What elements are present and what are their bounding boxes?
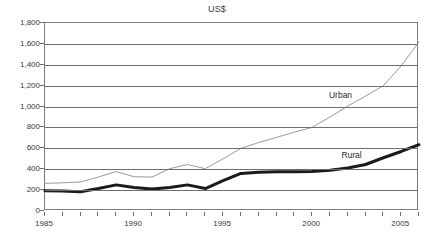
- x-axis-tick-mark: [276, 212, 277, 216]
- gridline: [45, 169, 417, 170]
- x-axis-tick-mark: [97, 212, 98, 216]
- gridline: [45, 107, 417, 108]
- gridline: [45, 44, 417, 45]
- gridline: [45, 127, 417, 128]
- y-axis-tick-label: 600: [2, 143, 40, 152]
- series-label-urban: Urban: [329, 90, 352, 100]
- x-axis-tick-label: 1990: [124, 219, 142, 228]
- x-axis-tick-mark: [311, 212, 312, 216]
- y-axis-tick-label: 400: [2, 164, 40, 173]
- y-axis-tick-label: 1,400: [2, 59, 40, 68]
- x-axis-tick-mark: [240, 212, 241, 216]
- x-axis-tick-label: 2000: [302, 219, 320, 228]
- x-axis-tick-mark: [44, 212, 45, 216]
- x-axis-tick-mark: [258, 212, 259, 216]
- chart-title: US$: [0, 4, 434, 14]
- x-axis-tick-mark: [222, 212, 223, 216]
- y-axis-tick-label: 1,800: [2, 18, 40, 27]
- y-axis-labels: 02004006008001,0001,2001,4001,6001,800: [0, 0, 40, 246]
- series-line-urban: [45, 42, 419, 184]
- x-axis-tick-mark: [418, 212, 419, 216]
- x-axis-tick-label: 2005: [391, 219, 409, 228]
- series-lines: [45, 23, 419, 211]
- gridline: [45, 65, 417, 66]
- x-axis-tick-mark: [365, 212, 366, 216]
- x-axis-tick-mark: [204, 212, 205, 216]
- x-axis-tick-mark: [115, 212, 116, 216]
- series-label-rural: Rural: [341, 150, 361, 160]
- x-axis-tick-mark: [329, 212, 330, 216]
- series-line-rural: [45, 145, 419, 192]
- y-axis-tick-label: 200: [2, 185, 40, 194]
- x-axis-tick-mark: [400, 212, 401, 216]
- x-axis-tick-mark: [169, 212, 170, 216]
- gridline: [45, 190, 417, 191]
- x-axis-tick-mark: [133, 212, 134, 216]
- x-axis-tick-mark: [293, 212, 294, 216]
- x-axis-tick-mark: [62, 212, 63, 216]
- x-axis-tick-mark: [151, 212, 152, 216]
- y-axis-tick-mark: [40, 210, 44, 211]
- gridline: [45, 86, 417, 87]
- x-axis-labels: 19851990199520002005: [0, 212, 434, 232]
- x-axis-tick-mark: [382, 212, 383, 216]
- x-axis-tick-mark: [347, 212, 348, 216]
- y-axis-tick-label: 1,600: [2, 38, 40, 47]
- y-axis-tick-label: 1,000: [2, 101, 40, 110]
- x-axis-tick-mark: [186, 212, 187, 216]
- y-axis-tick-label: 800: [2, 122, 40, 131]
- plot-area: [44, 22, 418, 210]
- x-axis-tick-label: 1985: [35, 219, 53, 228]
- x-axis-tick-mark: [80, 212, 81, 216]
- y-axis-tick-label: 1,200: [2, 80, 40, 89]
- chart-container: US$ 02004006008001,0001,2001,4001,6001,8…: [0, 0, 434, 246]
- x-axis-tick-label: 1995: [213, 219, 231, 228]
